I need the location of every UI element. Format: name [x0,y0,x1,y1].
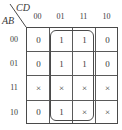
row-variable-label: AB [2,15,14,26]
column-header: 01 [49,12,72,21]
implicant-group-outline [50,30,94,121]
row-header: 11 [4,83,24,92]
kmap-cell: × [96,76,119,100]
column-header: 10 [95,12,118,21]
kmap-cell: 0 [96,52,119,76]
row-header: 01 [4,59,24,68]
row-header: 10 [4,108,24,117]
kmap-cell: 0 [27,28,50,52]
kmap-cell: × [27,76,50,100]
karnaugh-map: CD AB 00 01 11 10 00 01 11 10 0 1 1 0 0 … [0,0,122,130]
kmap-cell: 0 [96,28,119,52]
column-header: 11 [72,12,95,21]
row-header: 00 [4,35,24,44]
kmap-cell: × [96,100,119,124]
column-header: 00 [26,12,49,21]
kmap-cell: 0 [27,100,50,124]
kmap-cell: 0 [27,52,50,76]
